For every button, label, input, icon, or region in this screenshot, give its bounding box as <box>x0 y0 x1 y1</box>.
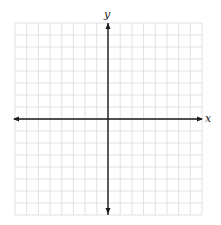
arrow-left-icon <box>13 117 19 122</box>
x-axis-label: x <box>205 112 212 125</box>
arrow-up-icon <box>106 23 111 29</box>
coordinate-plane: x y <box>0 0 221 225</box>
arrow-down-icon <box>106 208 111 214</box>
y-axis-label: y <box>103 8 111 21</box>
